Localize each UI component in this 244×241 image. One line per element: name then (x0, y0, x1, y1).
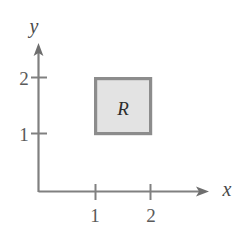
x-axis-label: x (222, 178, 232, 200)
coordinate-plane-figure: R y x 2 1 1 2 (0, 0, 244, 241)
y-tick-label-2: 2 (19, 68, 29, 89)
y-axis-label: y (28, 15, 39, 38)
x-tick-label-2: 2 (146, 205, 156, 226)
y-tick-label-1: 1 (19, 124, 29, 145)
x-tick-label-1: 1 (90, 205, 100, 226)
region-r-label: R (116, 98, 129, 119)
figure-canvas: R y x 2 1 1 2 (0, 0, 244, 241)
